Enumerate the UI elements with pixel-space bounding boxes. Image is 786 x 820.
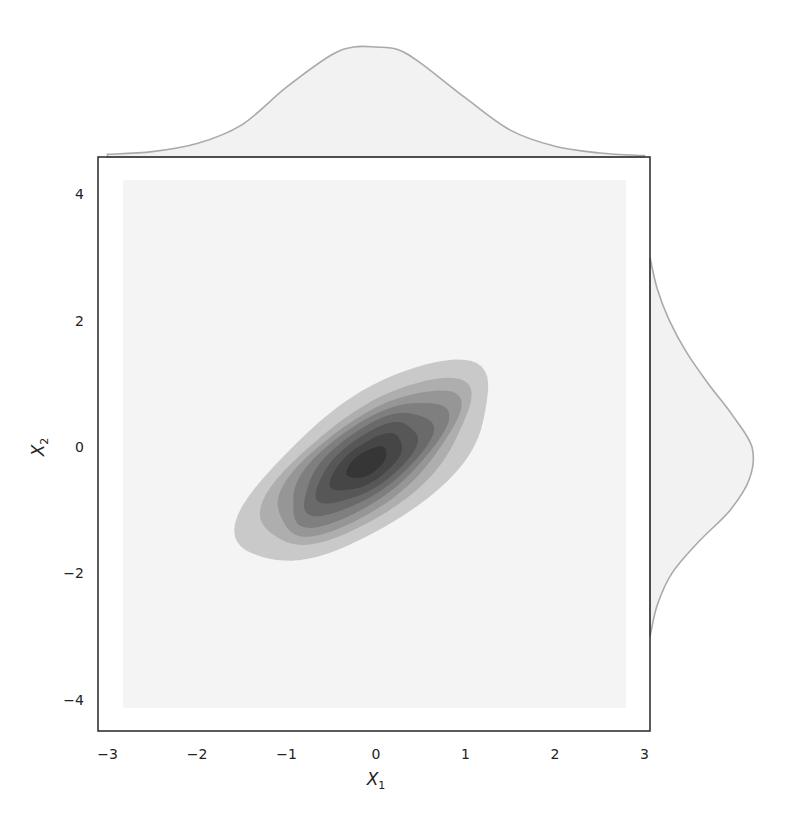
- x-tick-label: 0: [372, 746, 381, 762]
- x-tick-label: 1: [461, 746, 470, 762]
- y-tick-label: 0: [75, 439, 84, 455]
- y-axis-ticks: 420−2−4: [63, 186, 84, 708]
- marginal-y-kde: [650, 257, 753, 636]
- x-tick-label: 2: [551, 746, 560, 762]
- x-tick-label: −1: [276, 746, 297, 762]
- x-axis-label: X1: [366, 769, 386, 792]
- marginal-x-kde-curve: [108, 46, 645, 157]
- y-axis-label: X2: [28, 438, 51, 458]
- x-tick-label: −2: [187, 746, 208, 762]
- x-tick-label: −3: [97, 746, 118, 762]
- y-tick-label: −2: [63, 565, 84, 581]
- x-tick-label: 3: [640, 746, 649, 762]
- y-tick-label: −4: [63, 692, 84, 708]
- y-tick-label: 4: [75, 186, 84, 202]
- joint-kde-chart: −3−2−10123 420−2−4 X1 X2: [0, 0, 786, 820]
- x-axis-ticks: −3−2−10123: [97, 746, 649, 762]
- y-tick-label: 2: [75, 313, 84, 329]
- marginal-x-kde: [108, 46, 645, 157]
- marginal-y-kde-curve: [650, 257, 753, 636]
